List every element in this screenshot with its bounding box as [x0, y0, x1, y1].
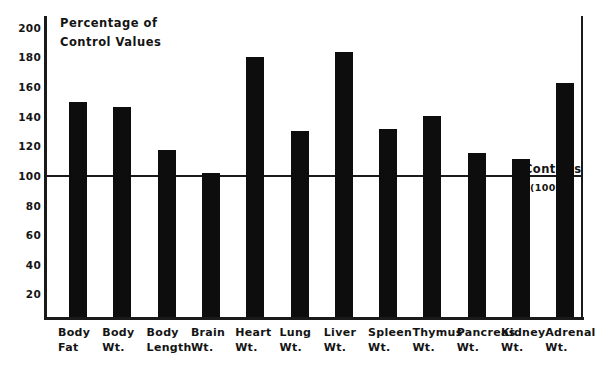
bar-liver-wt[interactable] [335, 52, 353, 317]
y-tick-100: 100 [3, 170, 41, 182]
bar-adrenal-wt[interactable] [556, 83, 574, 317]
bar-kidney-wt[interactable] [512, 159, 530, 317]
x-label-adrenal-wt: AdrenalWt. [545, 326, 595, 355]
y-tick-180: 180 [3, 51, 41, 63]
y-tick-80: 80 [3, 200, 41, 212]
x-label-brain-wt: BrainWt. [191, 326, 225, 355]
y-tick-60: 60 [3, 229, 41, 241]
y-tick-40: 40 [3, 259, 41, 271]
y-tick-140: 140 [3, 111, 41, 123]
y-tick-200: 200 [3, 22, 41, 34]
bar-lung-wt[interactable] [291, 131, 309, 317]
y-tick-120: 120 [3, 140, 41, 152]
x-axis-line [44, 317, 584, 320]
bar-body-wt[interactable] [113, 107, 131, 317]
bar-heart-wt[interactable] [246, 57, 264, 317]
bar-chart: 200 180 160 140 120 100 80 60 40 20 Perc… [0, 0, 609, 370]
bar-pancreas-wt[interactable] [468, 153, 486, 317]
x-label-heart-wt: HeartWt. [235, 326, 271, 355]
x-label-liver-wt: LiverWt. [324, 326, 356, 355]
x-label-body-fat: BodyFat [58, 326, 90, 355]
y-tick-160: 160 [3, 81, 41, 93]
x-label-kidney-wt: KidneyWt. [501, 326, 545, 355]
x-axis-category-labels: BodyFat BodyWt. BodyLength BrainWt. Hear… [47, 326, 587, 366]
x-label-body-wt: BodyWt. [102, 326, 134, 355]
bar-thymus-wt[interactable] [423, 116, 441, 317]
plot-area [47, 16, 581, 317]
x-label-lung-wt: LungWt. [280, 326, 312, 355]
y-tick-20: 20 [3, 288, 41, 300]
x-label-spleen-wt: SpleenWt. [368, 326, 412, 355]
x-label-thymus-wt: ThymusWt. [412, 326, 462, 355]
y-axis-tick-labels: 200 180 160 140 120 100 80 60 40 20 [0, 0, 41, 370]
bar-body-fat[interactable] [69, 102, 87, 317]
bar-brain-wt[interactable] [202, 173, 220, 317]
x-label-body-length: BodyLength [147, 326, 192, 355]
bar-spleen-wt[interactable] [379, 129, 397, 317]
bar-body-length[interactable] [158, 150, 176, 317]
